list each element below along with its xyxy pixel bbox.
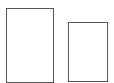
tall-rectangle xyxy=(6,8,54,83)
short-rectangle xyxy=(68,22,108,82)
